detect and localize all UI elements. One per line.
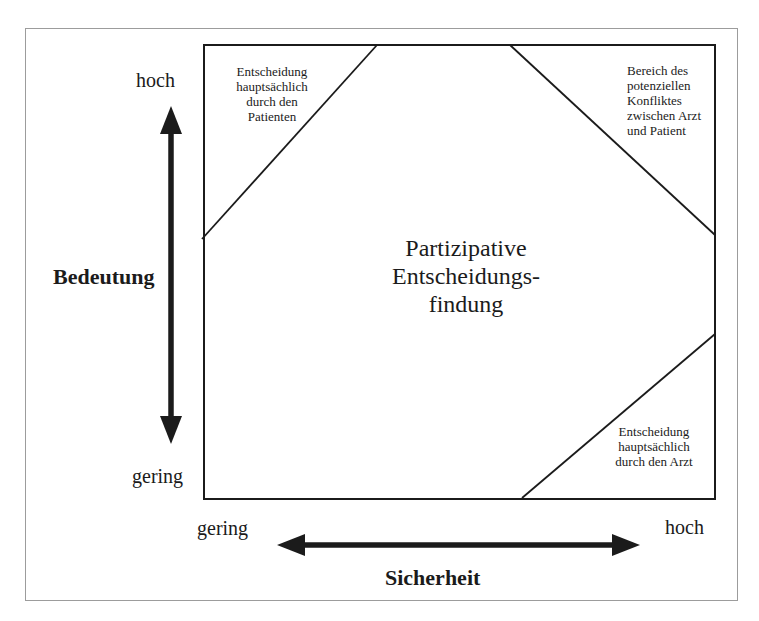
x-axis-high-tick: hoch <box>665 516 704 539</box>
region-label-patient: Entscheidung hauptsächlich durch den Pat… <box>212 64 332 124</box>
region-label-conflict: Bereich des potenziellen Konfliktes zwis… <box>627 63 722 138</box>
diagram-canvas: hoch Bedeutung gering gering hoch Sicher… <box>0 0 759 621</box>
y-axis-high-tick: hoch <box>136 69 175 92</box>
x-axis-title: Sicherheit <box>385 565 480 590</box>
y-axis-low-tick: gering <box>132 465 183 488</box>
y-axis-title: Bedeutung <box>53 264 154 289</box>
region-label-arzt: Entscheidung hauptsächlich durch den Arz… <box>597 424 711 469</box>
x-axis-low-tick: gering <box>197 517 248 540</box>
diagram-center-title: Partizipative Entscheidungs- findung <box>346 234 586 318</box>
